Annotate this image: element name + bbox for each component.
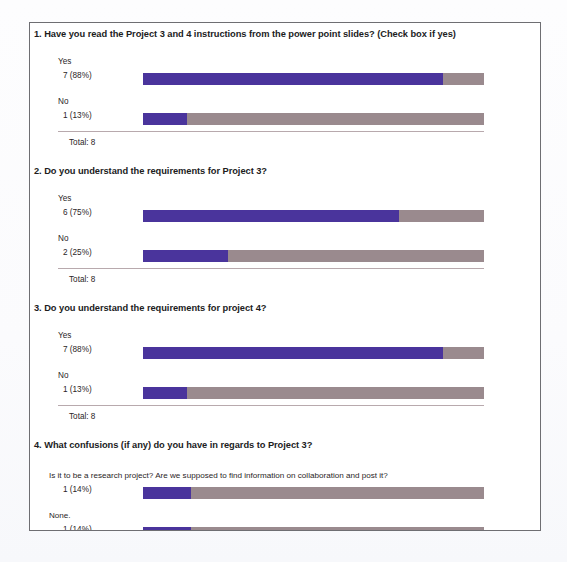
option-label-3-1: No (58, 371, 68, 380)
bar-track-3-0 (143, 347, 484, 359)
option-value-3-0: 7 (88%) (63, 345, 92, 354)
bar-track-3-1 (143, 387, 484, 399)
option-label-2-1: No (58, 234, 68, 243)
option-label-2-0: Yes (58, 194, 71, 203)
bar-track-4-1 (143, 527, 484, 531)
question-rule-3 (58, 405, 484, 406)
question-rule-1 (58, 131, 484, 132)
option-label-3-0: Yes (58, 331, 71, 340)
bar-track-4-0 (143, 487, 484, 499)
bar-track-2-0 (143, 210, 484, 222)
bar-fill-3-0 (143, 347, 443, 359)
bar-fill-4-1 (143, 527, 191, 531)
option-value-4-1: 1 (14%) (63, 525, 92, 531)
bar-fill-2-1 (143, 250, 228, 262)
bar-fill-1-1 (143, 113, 187, 125)
question-title-1: 1. Have you read the Project 3 and 4 ins… (34, 29, 456, 39)
option-value-1-0: 7 (88%) (63, 71, 92, 80)
question-total-3: Total: 8 (69, 412, 95, 421)
bar-track-2-1 (143, 250, 484, 262)
option-label-1-0: Yes (58, 57, 71, 66)
bar-track-1-1 (143, 113, 484, 125)
question-total-2: Total: 8 (69, 275, 95, 284)
question-title-4: 4. What confusions (if any) do you have … (34, 440, 312, 450)
bar-fill-2-0 (143, 210, 399, 222)
survey-report-frame: 1. Have you read the Project 3 and 4 ins… (29, 22, 541, 531)
question-title-3: 3. Do you understand the requirements fo… (34, 303, 266, 313)
option-label-1-1: No (58, 97, 68, 106)
question-block-3: 3. Do you understand the requirements fo… (30, 297, 540, 438)
option-value-3-1: 1 (13%) (63, 385, 92, 394)
option-label-4-0: Is it to be a research project? Are we s… (49, 471, 388, 480)
question-block-2: 2. Do you understand the requirements fo… (30, 160, 540, 301)
bar-fill-3-1 (143, 387, 187, 399)
question-rule-2 (58, 268, 484, 269)
option-label-4-1: None. (49, 511, 71, 520)
question-title-2: 2. Do you understand the requirements fo… (34, 166, 267, 176)
option-value-2-0: 6 (75%) (63, 208, 92, 217)
option-value-1-1: 1 (13%) (63, 111, 92, 120)
option-value-4-0: 1 (14%) (63, 485, 92, 494)
option-value-2-1: 2 (25%) (63, 248, 92, 257)
question-block-1: 1. Have you read the Project 3 and 4 ins… (30, 23, 540, 164)
bar-fill-4-0 (143, 487, 191, 499)
question-total-1: Total: 8 (69, 138, 95, 147)
bar-fill-1-0 (143, 73, 443, 85)
bar-track-1-0 (143, 73, 484, 85)
question-block-4: 4. What confusions (if any) do you have … (30, 434, 540, 531)
